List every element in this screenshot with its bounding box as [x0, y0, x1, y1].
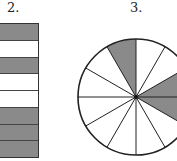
sector-divider — [107, 97, 136, 147]
sector-divider — [86, 97, 136, 126]
center-point — [134, 95, 138, 99]
shaded-sector — [136, 97, 177, 126]
shaded-sector — [136, 68, 177, 97]
fraction-circle — [0, 0, 177, 161]
